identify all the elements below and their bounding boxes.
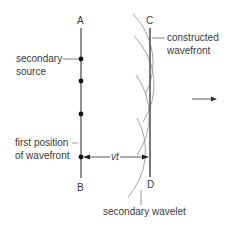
- label-first-position-2: of wavefront: [15, 150, 69, 162]
- label-vt: vt: [110, 151, 120, 162]
- arrowhead-left-icon: [83, 155, 90, 160]
- source-dot: [79, 112, 84, 117]
- label-secondary-source-2: source: [16, 66, 46, 78]
- source-dot: [79, 79, 84, 84]
- label-point-a: A: [77, 15, 84, 27]
- label-point-b: B: [77, 182, 84, 194]
- label-constructed-2: wavefront: [167, 45, 210, 57]
- label-secondary-wavelet: secondary wavelet: [103, 206, 186, 218]
- label-point-c: C: [146, 15, 153, 27]
- direction-arrow-icon: [192, 97, 217, 102]
- label-constructed-1: constructed: [167, 32, 219, 44]
- label-first-position-1: first position: [15, 137, 68, 149]
- source-dot: [79, 57, 84, 62]
- label-point-d: D: [147, 179, 154, 191]
- source-dot: [79, 155, 84, 160]
- label-secondary-source-1: secondary: [16, 53, 62, 65]
